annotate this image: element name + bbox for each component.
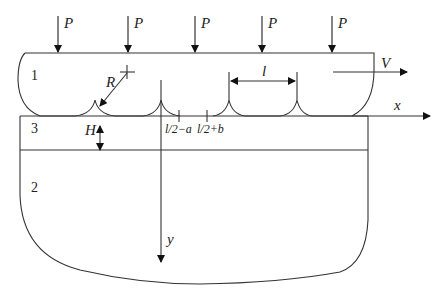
x-axis-label: x — [394, 98, 401, 113]
diagram-lines — [0, 0, 447, 292]
thickness-label: H — [85, 123, 96, 138]
velocity-label: V — [381, 56, 390, 71]
load-label-2: P — [134, 16, 143, 31]
load-label-1: P — [64, 16, 73, 31]
tick-label-a: l/2−a — [165, 123, 192, 135]
diagram-canvas: P P P P P 1 3 2 R H l V x y l/2−a l/2+b — [0, 0, 447, 292]
tick-label-b: l/2+b — [197, 123, 224, 135]
load-label-4: P — [268, 16, 277, 31]
load-label-5: P — [338, 16, 347, 31]
y-axis-label: y — [167, 232, 174, 247]
radius-label: R — [106, 75, 115, 90]
region-3-layer — [20, 116, 368, 150]
load-arrows — [58, 16, 332, 52]
region-2-outline — [20, 150, 368, 284]
region-2-label: 2 — [31, 181, 38, 195]
region-3-label: 3 — [31, 122, 38, 136]
region-1-outline — [18, 53, 374, 116]
load-label-3: P — [201, 16, 210, 31]
region-1-label: 1 — [31, 69, 38, 83]
spacing-label: l — [262, 64, 266, 79]
